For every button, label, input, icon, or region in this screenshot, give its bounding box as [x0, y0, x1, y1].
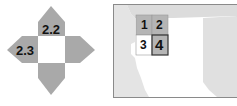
north-page-label: 2.2: [42, 23, 60, 36]
south-arrow[interactable]: [38, 63, 65, 95]
map-cell-2-label: 2: [156, 19, 163, 31]
map-inset-graphic: [113, 4, 237, 98]
map-cell-1-label: 1: [141, 19, 148, 31]
adjacent-page-compass: 2.2 2.3: [0, 0, 105, 106]
west-page-label: 2.3: [16, 44, 34, 57]
current-page-square: [38, 36, 65, 63]
east-landmass: [203, 16, 237, 97]
map-cell-4-label: 4: [155, 37, 163, 52]
east-arrow[interactable]: [65, 36, 95, 63]
map-cell-3-label: 3: [140, 39, 147, 51]
map-index-inset: 1 2 3 4: [113, 4, 237, 98]
